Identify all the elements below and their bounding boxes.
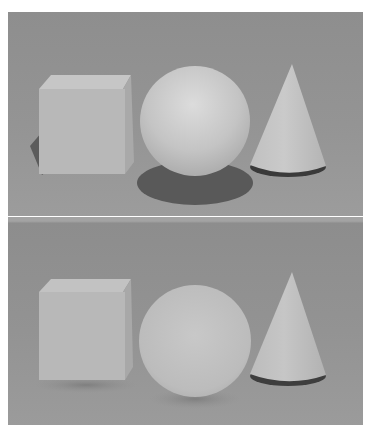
cone — [250, 64, 326, 177]
scene-soft-shadows — [8, 217, 363, 425]
sphere — [139, 285, 251, 397]
render-panel-hard-shadows — [8, 12, 363, 216]
render-panel-soft-shadows — [8, 217, 363, 425]
sphere — [140, 66, 250, 176]
cube — [39, 75, 134, 174]
scene-hard-shadows — [8, 12, 363, 216]
cone — [250, 272, 326, 386]
cube — [39, 279, 133, 380]
